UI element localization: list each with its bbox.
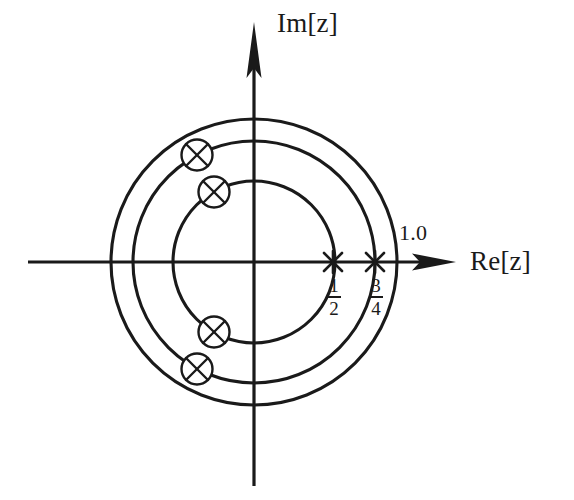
pole-marker-3 <box>199 317 230 348</box>
tick-label-half: 1 2 <box>321 276 347 318</box>
tick-label-half-denominator: 2 <box>321 299 347 318</box>
pole-zero-figure: Im[z] Re[z] 1.0 1 2 3 4 <box>0 0 574 500</box>
pole-marker-1 <box>182 140 213 171</box>
unit-circle-value-label: 1.0 <box>399 222 427 244</box>
imaginary-axis-label: Im[z] <box>277 10 338 37</box>
tick-label-half-numerator: 1 <box>321 276 347 295</box>
tick-label-three-quarter-numerator: 3 <box>363 276 389 295</box>
tick-label-three-quarter-denominator: 4 <box>363 299 389 318</box>
tick-label-three-quarter: 3 4 <box>363 276 389 318</box>
axes-group <box>28 22 456 486</box>
real-axis-label: Re[z] <box>470 248 531 275</box>
pole-marker-4 <box>182 354 213 385</box>
pole-marker-2 <box>199 177 230 208</box>
